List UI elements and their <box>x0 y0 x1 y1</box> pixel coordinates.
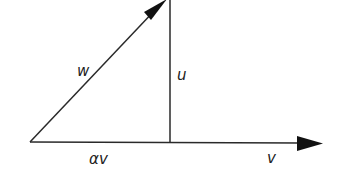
vector-w-line <box>30 9 156 142</box>
vector-v-line <box>30 142 300 143</box>
label-u: u <box>177 66 187 84</box>
label-alpha-v: αv <box>89 150 109 168</box>
vector-v-arrowhead <box>297 136 323 151</box>
label-v: v <box>267 149 277 167</box>
label-w: w <box>77 62 90 80</box>
vector-diagram: w u αv v <box>0 0 344 169</box>
